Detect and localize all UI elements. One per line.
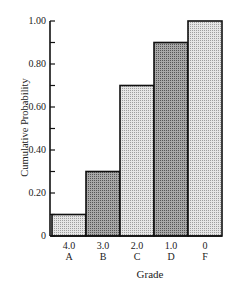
x-tick-label: 0F: [188, 240, 222, 262]
x-tick-label: 3.0B: [86, 240, 120, 262]
bar-a: [52, 215, 86, 237]
bar-b: [86, 172, 120, 237]
y-tick-label: 0: [6, 231, 46, 241]
x-axis-label: Grade: [120, 268, 180, 280]
y-tick-label: 0.80: [6, 59, 46, 69]
bars-group: [52, 21, 222, 236]
bar-d: [154, 43, 188, 237]
bar-c: [120, 86, 154, 237]
y-tick-label: 0.20: [6, 188, 46, 198]
x-tick-label: 2.0C: [120, 240, 154, 262]
y-tick-label: 1.00: [6, 16, 46, 26]
y-tick-label: 0.40: [6, 145, 46, 155]
y-axis-label: Cumulative Probability: [19, 68, 30, 188]
x-tick-label: 1.0D: [154, 240, 188, 262]
x-tick-label: 4.0A: [52, 240, 86, 262]
y-tick-label: 0.60: [6, 102, 46, 112]
bar-f: [188, 21, 222, 236]
